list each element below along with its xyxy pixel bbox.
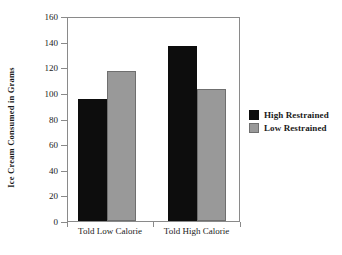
bar-high-restrained-told-high-calorie bbox=[168, 46, 197, 221]
x-axis-separator bbox=[240, 222, 241, 227]
legend-swatch-icon bbox=[249, 123, 259, 133]
y-tick-label: 20 bbox=[18, 192, 58, 201]
plot-area bbox=[67, 17, 240, 222]
legend-label: Low Restrained bbox=[264, 123, 327, 133]
y-tick-label: 140 bbox=[18, 38, 58, 47]
legend-label: High Restrained bbox=[264, 110, 329, 120]
x-axis-label-told-high-calorie: Told High Calorie bbox=[153, 226, 240, 236]
x-axis-label-told-low-calorie: Told Low Calorie bbox=[67, 226, 153, 236]
y-tick-label: 100 bbox=[18, 89, 58, 98]
bar-low-restrained-told-low-calorie bbox=[107, 71, 136, 221]
bar-high-restrained-told-low-calorie bbox=[78, 99, 107, 221]
y-tick-label: 160 bbox=[18, 13, 58, 22]
y-tick-label: 60 bbox=[18, 141, 58, 150]
legend-item-high-restrained: High Restrained bbox=[249, 110, 329, 120]
y-tick-label: 80 bbox=[18, 115, 58, 124]
legend-swatch-icon bbox=[249, 110, 259, 120]
bar-low-restrained-told-high-calorie bbox=[197, 89, 226, 221]
legend: High Restrained Low Restrained bbox=[249, 110, 329, 133]
bar-chart: Ice Cream Consumed in Grams 0 20 40 60 8… bbox=[0, 0, 342, 255]
y-tick-label: 120 bbox=[18, 64, 58, 73]
legend-item-low-restrained: Low Restrained bbox=[249, 123, 329, 133]
y-tick-label: 40 bbox=[18, 166, 58, 175]
y-tick-label: 0 bbox=[18, 218, 58, 227]
